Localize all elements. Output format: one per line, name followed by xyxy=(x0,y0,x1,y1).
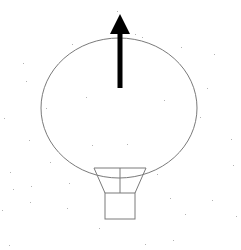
balloon-skirt-left-rope xyxy=(94,168,105,193)
balloon-basket xyxy=(105,193,135,219)
upward-arrow-head xyxy=(110,14,130,34)
upward-arrow-shaft xyxy=(118,30,123,88)
balloon-skirt-right-rope xyxy=(135,168,146,193)
balloon-figure: Hot air balloon ascending Line drawing o… xyxy=(0,0,241,250)
balloon-scene: Hot air balloon ascending Line drawing o… xyxy=(0,0,241,250)
